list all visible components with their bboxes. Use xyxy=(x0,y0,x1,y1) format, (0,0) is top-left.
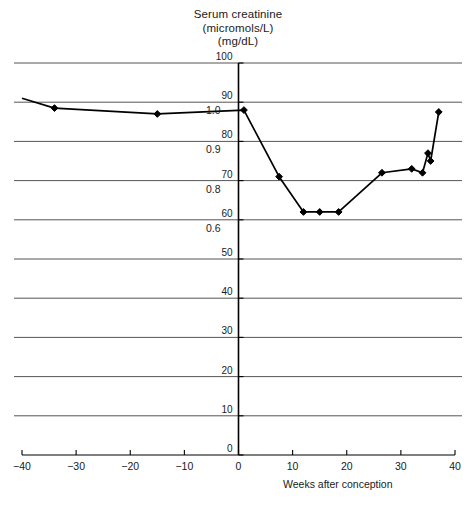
x-axis-tick-label: 30 xyxy=(384,460,418,472)
y-axis-tick-label: 20 xyxy=(207,365,233,376)
plot-area xyxy=(0,0,476,507)
x-axis-tick-label: −40 xyxy=(5,460,39,472)
data-point-marker xyxy=(427,158,434,165)
x-axis-tick-label: 10 xyxy=(276,460,310,472)
data-point-marker xyxy=(419,169,426,176)
x-axis-title: Weeks after conception xyxy=(283,478,393,490)
series-line xyxy=(22,98,439,212)
x-axis-tick-label: −10 xyxy=(167,460,201,472)
y-axis-tick-label: 40 xyxy=(207,286,233,297)
y-axis-tick-label: 0 xyxy=(207,443,233,454)
secondary-y-axis-tick-label: 0.8 xyxy=(191,183,221,195)
x-axis-tick-label: 40 xyxy=(438,460,472,472)
y-axis-tick-label: 60 xyxy=(207,208,233,219)
x-axis-ticks xyxy=(22,450,455,455)
data-point-marker xyxy=(51,105,58,112)
y-axis-tick-label: 90 xyxy=(207,90,233,101)
y-axis-tick-label: 100 xyxy=(207,51,233,62)
data-point-marker xyxy=(435,109,442,116)
data-point-marker xyxy=(316,209,323,216)
data-point-marker xyxy=(154,111,161,118)
x-axis-tick-label: 0 xyxy=(222,460,256,472)
x-axis-tick-label: −30 xyxy=(59,460,93,472)
data-point-marker xyxy=(425,150,432,157)
serum-creatinine-chart: Serum creatinine (micromols/L) (mg/dL) 0… xyxy=(0,0,476,507)
secondary-y-axis-tick-label: 0.9 xyxy=(191,143,221,155)
y-axis-tick-label: 10 xyxy=(207,404,233,415)
secondary-y-axis-tick-label: 1.0 xyxy=(191,104,221,116)
y-axis-tick-label: 30 xyxy=(207,325,233,336)
data-line xyxy=(22,98,439,212)
y-axis-tick-label: 50 xyxy=(207,247,233,258)
y-axis-tick-label: 80 xyxy=(207,129,233,140)
secondary-y-axis-tick-label: 0.6 xyxy=(191,222,221,234)
y-axis-tick-label: 70 xyxy=(207,169,233,180)
x-axis-tick-label: 20 xyxy=(330,460,364,472)
data-points xyxy=(51,105,442,216)
data-point-marker xyxy=(241,107,248,114)
data-point-marker xyxy=(408,165,415,172)
x-axis-tick-label: −20 xyxy=(113,460,147,472)
